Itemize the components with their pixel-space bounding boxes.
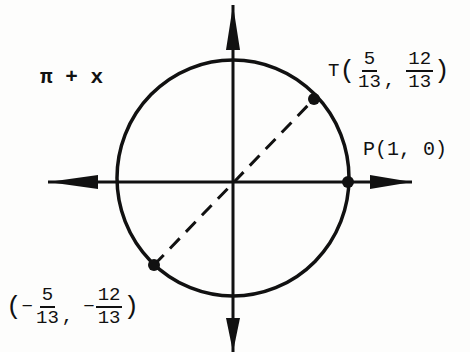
reflected-x-fraction: 5 13	[34, 286, 61, 328]
point-reflected-label: ( − 5 13 , − 12 13 )	[6, 286, 139, 328]
open-paren: (	[6, 294, 22, 320]
reflected-x-numerator: 5	[40, 286, 55, 308]
close-paren: )	[434, 58, 450, 84]
reflected-y-numerator: 12	[96, 286, 123, 308]
t-y-numerator: 12	[406, 50, 433, 72]
reflected-y-denominator: 13	[96, 308, 123, 328]
comma: ,	[384, 70, 395, 92]
point-reflected	[148, 259, 160, 271]
close-paren: )	[123, 294, 139, 320]
arrow-right-icon	[370, 175, 412, 189]
point-p	[342, 176, 354, 188]
comma: ,	[62, 306, 73, 328]
t-x-numerator: 5	[362, 50, 377, 72]
unit-circle-diagram: π + x T ( 5 13 , 12 13 ) P(1, 0) ( − 5 1…	[0, 0, 470, 352]
arrow-up-icon	[226, 5, 240, 50]
point-t	[308, 93, 320, 105]
arrow-left-icon	[48, 175, 98, 189]
reflected-x-denominator: 13	[34, 308, 61, 328]
point-p-label: P(1, 0)	[363, 138, 447, 161]
t-x-fraction: 5 13	[356, 50, 383, 92]
angle-label: π + x	[40, 66, 103, 89]
point-t-label: T ( 5 13 , 12 13 )	[328, 50, 450, 92]
open-paren: (	[339, 58, 355, 84]
t-x-denominator: 13	[356, 72, 383, 92]
point-t-name: T	[328, 60, 339, 82]
reflected-y-fraction: 12 13	[96, 286, 123, 328]
arrow-down-icon	[226, 318, 240, 352]
x-sign: −	[22, 296, 33, 318]
t-y-fraction: 12 13	[406, 50, 433, 92]
t-y-denominator: 13	[406, 72, 433, 92]
y-sign: −	[83, 296, 94, 318]
